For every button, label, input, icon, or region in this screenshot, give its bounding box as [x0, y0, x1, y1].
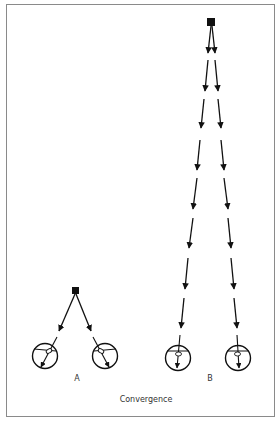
- panel-b-label: B: [207, 374, 213, 383]
- panel-a: [33, 287, 118, 369]
- eye-a-right-icon: [93, 337, 118, 369]
- panel-a-label: A: [74, 374, 79, 383]
- object-a-icon: [72, 287, 79, 294]
- convergence-diagram: [0, 0, 279, 422]
- figure-caption: Convergence: [120, 395, 173, 404]
- eye-b-left-icon: [166, 335, 191, 371]
- eye-a-left-icon: [33, 337, 58, 369]
- panel-b: [166, 18, 251, 371]
- eye-b-right-icon: [226, 335, 251, 371]
- object-b-icon: [207, 18, 215, 26]
